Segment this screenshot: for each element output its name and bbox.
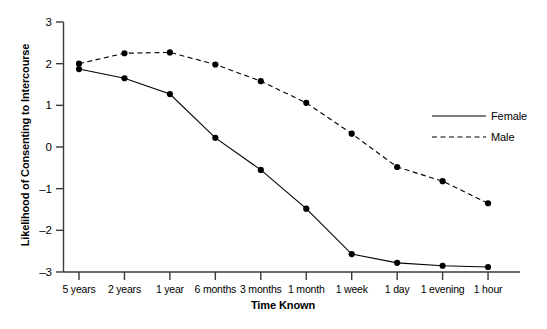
series-line-female: [79, 69, 488, 267]
data-point-male-9: [485, 200, 491, 206]
data-point-male-8: [440, 178, 446, 184]
data-point-female-5: [303, 206, 309, 212]
legend-label-female: Female: [491, 110, 527, 123]
y-axis-ticks: [56, 22, 64, 272]
chart-series-layer: [76, 49, 491, 270]
data-point-female-6: [349, 251, 355, 257]
data-point-male-7: [394, 164, 400, 170]
x-axis-tick-label: 1 year: [156, 283, 184, 295]
y-axis-tick-label: 2: [26, 58, 52, 70]
x-axis-tick-label: 1 month: [288, 283, 325, 295]
data-point-female-7: [394, 260, 400, 266]
data-point-female-1: [121, 75, 127, 81]
legend-label-male: Male: [491, 131, 514, 144]
data-point-male-5: [303, 100, 309, 106]
data-point-male-6: [349, 131, 355, 137]
data-point-male-3: [212, 61, 218, 67]
data-point-male-2: [167, 49, 173, 55]
legend-line-samples: [432, 116, 486, 137]
data-point-female-8: [440, 263, 446, 269]
y-axis-tick-label: –2: [26, 224, 52, 236]
x-axis-tick-label: 1 day: [385, 283, 410, 295]
x-axis-tick-label: 6 months: [195, 283, 237, 295]
x-axis-tick-label: 2 years: [108, 283, 141, 295]
data-point-male-1: [121, 50, 127, 56]
y-axis-tick-label: 0: [26, 141, 52, 153]
y-axis-tick-label: 1: [26, 99, 52, 111]
x-axis-tick-label: 1 hour: [474, 283, 503, 295]
data-point-female-2: [167, 91, 173, 97]
data-point-female-3: [212, 135, 218, 141]
chart-figure: Likelihood of Consenting to Intercourse …: [0, 0, 547, 329]
x-axis-title: Time Known: [63, 299, 503, 311]
x-axis-tick-label: 1 week: [336, 283, 368, 295]
data-point-female-9: [485, 264, 491, 270]
x-axis-ticks: [79, 272, 488, 280]
y-axis-tick-label: 3: [26, 16, 52, 28]
x-axis-tick-label: 5 years: [62, 283, 95, 295]
x-axis-tick-label: 1 evening: [421, 283, 465, 295]
chart-plot-area: [0, 0, 547, 329]
chart-axes: [64, 22, 521, 272]
data-point-male-4: [258, 78, 264, 84]
x-axis-tick-label: 3 months: [240, 283, 282, 295]
y-axis-tick-label: –3: [26, 266, 52, 278]
data-point-male-0: [76, 61, 82, 67]
series-line-male: [79, 52, 488, 203]
data-point-female-4: [258, 167, 264, 173]
data-point-female-0: [76, 66, 82, 72]
y-axis-tick-label: –1: [26, 183, 52, 195]
